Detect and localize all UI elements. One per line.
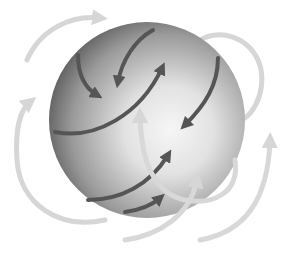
sphere-diagram <box>0 0 285 256</box>
diagram-canvas <box>0 0 285 256</box>
sphere <box>49 22 245 218</box>
